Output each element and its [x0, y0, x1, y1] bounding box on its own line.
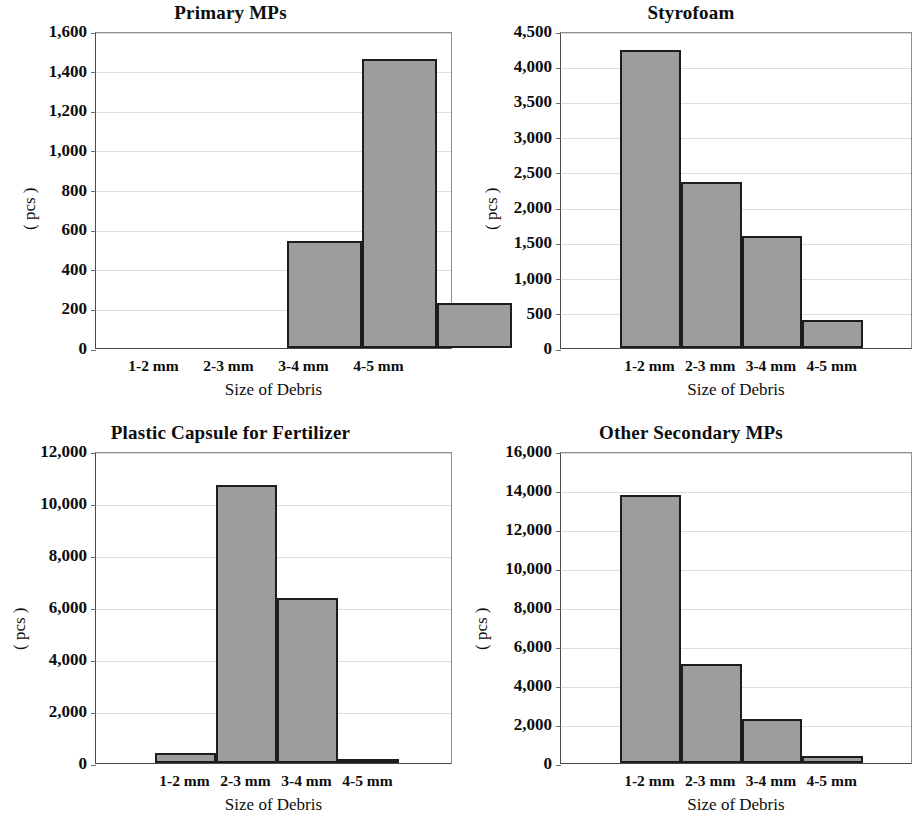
x-axis-tick-label: 4-5 mm [801, 357, 862, 375]
y-tick-mark [91, 191, 96, 192]
y-tick-mark [556, 209, 561, 210]
bar [742, 719, 803, 763]
y-axis-tick-label: 10,000 [0, 495, 87, 512]
bar [620, 50, 681, 348]
y-tick-mark [556, 531, 561, 532]
y-tick-mark [556, 726, 561, 727]
y-axis-tick-label: 12,000 [0, 443, 87, 460]
x-axis-tick-label: 3-4 mm [276, 772, 337, 790]
bar [681, 664, 742, 763]
y-axis-tick-label: 2,000 [442, 716, 552, 733]
y-tick-mark [556, 765, 561, 766]
y-tick-mark [91, 557, 96, 558]
y-tick-mark [556, 103, 561, 104]
y-tick-mark [91, 453, 96, 454]
y-axis-title: ( pcs ) [20, 188, 39, 230]
chart-panel-4: Other Secondary MPs02,0004,0006,0008,000… [461, 420, 921, 832]
x-axis-tick-label: 2-3 mm [191, 357, 266, 375]
gridline [561, 103, 911, 104]
x-axis-tick-labels: 1-2 mm2-3 mm3-4 mm4-5 mm [154, 772, 398, 790]
gridline [561, 33, 911, 34]
y-axis-tick-label: 4,000 [442, 58, 552, 75]
y-axis-title: ( pcs ) [482, 188, 501, 230]
y-tick-mark [556, 453, 561, 454]
bar [802, 320, 863, 348]
y-axis-tick-label: 4,000 [0, 651, 87, 668]
y-tick-mark [556, 138, 561, 139]
x-axis-tick-label: 1-2 mm [154, 772, 215, 790]
y-axis-tick-label: 800 [0, 182, 87, 199]
x-axis-title: Size of Debris [95, 795, 452, 814]
y-axis-tick-label: 3,500 [442, 93, 552, 110]
x-axis-tick-labels: 1-2 mm2-3 mm3-4 mm4-5 mm [619, 772, 862, 790]
x-axis-tick-label: 2-3 mm [215, 772, 276, 790]
bar [681, 182, 742, 348]
x-axis-tick-label: 4-5 mm [341, 357, 416, 375]
bar [338, 759, 399, 763]
chart-title: Other Secondary MPs [461, 422, 921, 444]
chart-panel-2: Styrofoam05001,0001,5002,0002,5003,0003,… [461, 0, 921, 420]
y-axis-tick-label: 0 [442, 755, 552, 772]
gridline [561, 609, 911, 610]
y-tick-mark [91, 231, 96, 232]
y-tick-mark [556, 492, 561, 493]
gridline [561, 531, 911, 532]
y-axis-tick-label: 10,000 [442, 560, 552, 577]
y-axis-tick-label: 1,200 [0, 102, 87, 119]
y-axis-tick-label: 500 [442, 305, 552, 322]
y-axis-tick-label: 1,600 [0, 23, 87, 40]
y-axis-tick-label: 2,500 [442, 164, 552, 181]
y-axis-tick-label: 1,400 [0, 63, 87, 80]
chart-title: Plastic Capsule for Fertilizer [0, 422, 461, 444]
x-axis-tick-label: 3-4 mm [741, 357, 802, 375]
y-axis-tick-label: 4,000 [442, 677, 552, 694]
y-axis-tick-label: 14,000 [442, 482, 552, 499]
y-tick-mark [556, 33, 561, 34]
multi-panel-bar-chart-figure: Primary MPs02004006008001,0001,2001,4001… [0, 0, 921, 832]
chart-title: Primary MPs [0, 2, 461, 24]
gridline [561, 648, 911, 649]
y-axis-tick-label: 2,000 [0, 703, 87, 720]
y-tick-mark [91, 33, 96, 34]
plot-area [560, 452, 912, 764]
x-axis-tick-label: 1-2 mm [619, 772, 680, 790]
y-axis-tick-label: 12,000 [442, 521, 552, 538]
bar [362, 59, 437, 348]
y-axis-tick-label: 8,000 [442, 599, 552, 616]
x-axis-tick-labels: 1-2 mm2-3 mm3-4 mm4-5 mm [619, 357, 862, 375]
y-tick-mark [556, 173, 561, 174]
bar [155, 753, 216, 763]
y-tick-mark [556, 570, 561, 571]
y-tick-mark [556, 687, 561, 688]
plot-area [95, 452, 452, 764]
y-tick-mark [91, 713, 96, 714]
bar [287, 241, 362, 348]
y-axis-tick-label: 1,000 [0, 142, 87, 159]
y-axis-tick-label: 600 [0, 221, 87, 238]
y-tick-mark [91, 609, 96, 610]
x-axis-tick-label: 2-3 mm [680, 772, 741, 790]
y-axis-tick-label: 6,000 [442, 638, 552, 655]
x-axis-tick-label: 1-2 mm [619, 357, 680, 375]
chart-panel-3: Plastic Capsule for Fertilizer02,0004,00… [0, 420, 461, 832]
y-tick-mark [91, 505, 96, 506]
y-tick-mark [91, 112, 96, 113]
x-axis-tick-label: 2-3 mm [680, 357, 741, 375]
y-tick-mark [91, 765, 96, 766]
y-axis-tick-label: 1,000 [442, 270, 552, 287]
y-tick-mark [91, 310, 96, 311]
y-tick-mark [91, 661, 96, 662]
y-tick-mark [91, 270, 96, 271]
gridline [561, 492, 911, 493]
y-axis-tick-label: 200 [0, 300, 87, 317]
x-axis-tick-labels: 1-2 mm2-3 mm3-4 mm4-5 mm [116, 357, 416, 375]
y-tick-mark [556, 68, 561, 69]
plot-area [560, 32, 912, 349]
bar [742, 236, 803, 348]
bar [620, 495, 681, 763]
y-axis-tick-label: 4,500 [442, 23, 552, 40]
y-tick-mark [556, 648, 561, 649]
gridline [561, 570, 911, 571]
x-axis-title: Size of Debris [560, 795, 912, 814]
gridline [561, 68, 911, 69]
